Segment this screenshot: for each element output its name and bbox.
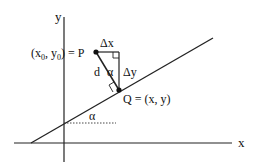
y-axis-label: y <box>55 9 62 24</box>
alpha-line-label: α <box>89 109 96 123</box>
right-angle-marker-q <box>109 82 114 92</box>
point-q <box>116 87 121 92</box>
d-label: d <box>94 65 100 79</box>
dy-label: Δy <box>123 65 137 79</box>
dx-label: Δx <box>100 36 114 50</box>
p-label: (x0, y0) = P <box>31 46 85 62</box>
q-label: Q = (x, y) <box>123 92 170 106</box>
right-angle-marker-top <box>113 52 119 58</box>
alpha-triangle-label: α <box>107 65 114 79</box>
distance-diagram: y x (x0, y0) = P Q = (x, y) Δx Δy d α α <box>0 0 256 162</box>
point-p <box>93 49 98 54</box>
x-axis-label: x <box>238 135 245 150</box>
